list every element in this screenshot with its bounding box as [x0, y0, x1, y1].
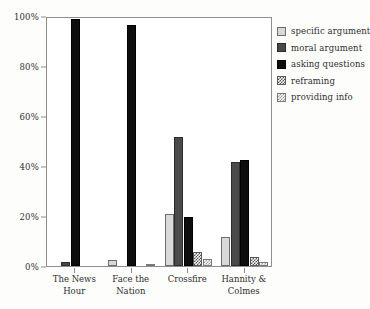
legend-item-specific[interactable]: specific argument [277, 24, 369, 38]
bar-specific-1 [108, 260, 117, 266]
legend-label: specific argument [291, 26, 370, 36]
y-axis-tick-label: 60% [20, 112, 40, 122]
bar-asking-2 [184, 217, 193, 266]
x-axis-tick-label: The NewsHour [53, 274, 96, 297]
bar-reframing-2 [193, 252, 202, 266]
bar-specific-3 [221, 237, 230, 266]
x-axis-tick-label-line: Face the [112, 274, 149, 286]
y-axis: 0%20%40%60%80%100% [0, 17, 46, 267]
x-axis-tick-label-line: Hannity & [221, 274, 266, 286]
bar-providing-2 [203, 259, 212, 267]
x-axis-tick-label-line: Hour [53, 286, 96, 298]
y-axis-tick-label: 20% [20, 212, 40, 222]
y-axis-tick-label: 40% [20, 162, 40, 172]
x-axis-tick-mark [244, 268, 245, 273]
legend-item-asking[interactable]: asking questions [277, 57, 369, 71]
x-axis-tick-label: Face theNation [112, 274, 149, 297]
bar-moral-0 [61, 262, 70, 266]
y-axis-tick-label: 0% [25, 262, 39, 272]
x-axis-tick-label-line: Colmes [221, 286, 266, 298]
bar-asking-1 [127, 25, 136, 266]
x-axis-tick-mark [187, 268, 188, 273]
x-axis-tick-label-line: The News [53, 274, 96, 286]
legend-swatch-icon [277, 43, 286, 52]
y-axis-tick-label: 80% [20, 62, 40, 72]
chart-figure: 0%20%40%60%80%100% The NewsHourFace theN… [0, 0, 370, 309]
bar-moral-2 [174, 137, 183, 266]
x-axis-tick-mark [74, 268, 75, 273]
x-axis-tick-label: Crossfire [168, 274, 207, 286]
bar-asking-3 [240, 160, 249, 266]
legend-label: reframing [291, 76, 335, 86]
bar-providing-3 [259, 262, 268, 266]
bar-asking-0 [71, 19, 80, 267]
legend-label: providing info [291, 92, 353, 102]
bar-moral-3 [231, 162, 240, 266]
x-axis-tick-mark [131, 268, 132, 273]
plot-area [46, 17, 272, 267]
bar-providing-1 [146, 264, 155, 266]
x-axis: The NewsHourFace theNationCrossfireHanni… [46, 268, 272, 308]
chart-legend: specific argumentmoral argumentasking qu… [277, 24, 369, 107]
y-axis-tick-label: 100% [14, 12, 39, 22]
legend-swatch-icon [277, 27, 286, 36]
legend-swatch-icon [277, 60, 286, 69]
x-axis-tick-label: Hannity &Colmes [221, 274, 266, 297]
legend-label: asking questions [291, 59, 365, 69]
x-axis-tick-label-line: Nation [112, 286, 149, 298]
bars-layer [47, 18, 271, 266]
legend-item-reframing[interactable]: reframing [277, 74, 369, 88]
legend-swatch-icon [277, 76, 286, 85]
bar-reframing-3 [250, 257, 259, 266]
bar-specific-2 [165, 214, 174, 267]
legend-item-moral[interactable]: moral argument [277, 41, 369, 55]
legend-swatch-icon [277, 93, 286, 102]
legend-item-providing[interactable]: providing info [277, 90, 369, 104]
legend-label: moral argument [291, 43, 362, 53]
x-axis-tick-label-line: Crossfire [168, 274, 207, 286]
